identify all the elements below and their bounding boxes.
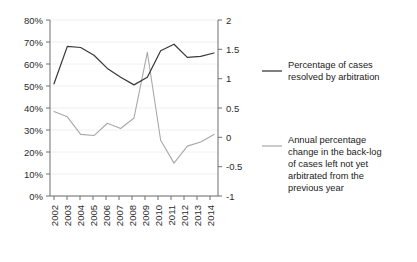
x-axis-tick-label-2004: 2004 <box>75 205 86 226</box>
x-axis: 2002 2003 2004 2005 2006 2007 2008 2009 … <box>49 196 219 226</box>
legend-label-backlog-line4: arbitrated from the <box>288 171 364 181</box>
left-axis: 0% 10% 20% 30% 40% 50% 60% 70% 80% <box>24 15 50 202</box>
left-axis-tick-label-50: 50% <box>24 81 44 92</box>
legend-label-arbitration-line2: resolved by arbitration <box>288 72 379 82</box>
x-axis-tick-label-2006: 2006 <box>101 205 112 226</box>
x-axis-tick-label-2013: 2013 <box>192 205 203 226</box>
legend: Percentage of cases resolved by arbitrat… <box>262 60 382 193</box>
left-axis-tick-label-20: 20% <box>24 147 44 158</box>
x-axis-tick-label-2012: 2012 <box>179 205 190 226</box>
legend-label-backlog-line2: change in the back-log <box>288 147 382 157</box>
legend-label-arbitration-line1: Percentage of cases <box>288 60 373 70</box>
right-axis-tick-label-0.5: 0.5 <box>226 103 239 114</box>
left-axis-tick-label-0: 0% <box>29 191 43 202</box>
x-axis-tick-label-2014: 2014 <box>205 205 216 226</box>
left-axis-tick-label-70: 70% <box>24 37 44 48</box>
legend-label-backlog-line1: Annual percentage <box>288 135 366 145</box>
x-axis-tick-label-2003: 2003 <box>62 205 73 226</box>
left-axis-tick-label-60: 60% <box>24 59 44 70</box>
legend-label-backlog-line5: previous year <box>288 183 344 193</box>
right-axis-tick-label-neg0.5: -0.5 <box>226 161 242 172</box>
right-axis-tick-label-2: 2 <box>226 15 231 26</box>
x-axis-tick-label-2011: 2011 <box>166 205 177 225</box>
left-axis-tick-label-10: 10% <box>24 169 44 180</box>
gridlines <box>50 20 218 196</box>
right-axis-tick-label-0: 0 <box>226 132 231 143</box>
x-axis-tick-label-2002: 2002 <box>49 205 60 226</box>
x-axis-tick-label-2005: 2005 <box>88 205 99 226</box>
dual-axis-line-chart: 0% 10% 20% 30% 40% 50% 60% 70% 80% -1 -0… <box>0 0 417 262</box>
right-axis-tick-label-neg1: -1 <box>226 191 234 202</box>
legend-label-backlog-line3: of cases left not yet <box>288 159 369 169</box>
x-axis-tick-label-2009: 2009 <box>140 205 151 226</box>
left-axis-tick-label-80: 80% <box>24 15 44 26</box>
left-axis-tick-label-40: 40% <box>24 103 44 114</box>
right-axis-tick-label-1: 1 <box>226 73 231 84</box>
series-line-arbitration-percentage <box>54 44 214 85</box>
x-axis-tick-label-2010: 2010 <box>153 205 164 226</box>
chart-container: 0% 10% 20% 30% 40% 50% 60% 70% 80% -1 -0… <box>0 0 417 262</box>
left-axis-tick-label-30: 30% <box>24 125 44 136</box>
right-axis: -1 -0.5 0 0.5 1 1.5 2 <box>218 15 242 202</box>
x-axis-tick-label-2008: 2008 <box>127 205 138 226</box>
right-axis-tick-label-1.5: 1.5 <box>226 44 239 55</box>
x-axis-tick-label-2007: 2007 <box>114 205 125 226</box>
